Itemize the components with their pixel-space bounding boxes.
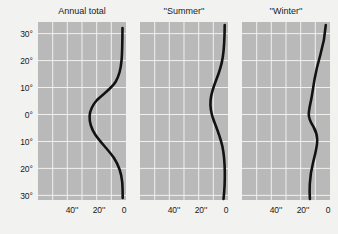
x-axis-tick-labels-winter: 40'' 20'' 0: [270, 205, 331, 215]
x-tick-label-40-annual: 40'': [66, 205, 79, 215]
x-tick-label-20-summer: 20'': [195, 205, 208, 215]
y-tick-label-0: 0°: [25, 110, 33, 120]
y-axis-tick-labels: 30° 20° 10° 0° 10° 20° 30°: [20, 29, 33, 201]
y-tick-label-20s: 20°: [20, 164, 33, 174]
x-tick-label-0-annual: 0: [122, 205, 127, 215]
panel-winter: ''Winter'': [242, 6, 330, 200]
panel-title-annual-total: Annual total: [58, 6, 106, 16]
x-tick-label-20-winter: 20'': [297, 205, 310, 215]
panel-annual-total: Annual total: [38, 6, 126, 200]
x-tick-label-0-summer: 0: [224, 205, 229, 215]
y-tick-label-10n: 10°: [20, 83, 33, 93]
x-tick-label-20-annual: 20'': [93, 205, 106, 215]
y-tick-label-10s: 10°: [20, 137, 33, 147]
y-tick-label-30s: 30°: [20, 191, 33, 201]
panel-title-summer: ''Summer'': [164, 6, 205, 16]
panel-title-winter: ''Winter'': [270, 6, 303, 16]
x-tick-label-0-winter: 0: [326, 205, 331, 215]
y-tick-label-30n: 30°: [20, 29, 33, 39]
x-tick-label-40-winter: 40'': [270, 205, 283, 215]
panel-summer: ''Summer'': [140, 6, 228, 200]
y-tick-label-20n: 20°: [20, 56, 33, 66]
x-tick-label-40-summer: 40'': [168, 205, 181, 215]
latitude-profile-figure: Annual total ''Summer'': [0, 0, 338, 234]
x-axis-tick-labels-annual-total: 40'' 20'' 0: [66, 205, 127, 215]
x-axis-tick-labels-summer: 40'' 20'' 0: [168, 205, 229, 215]
